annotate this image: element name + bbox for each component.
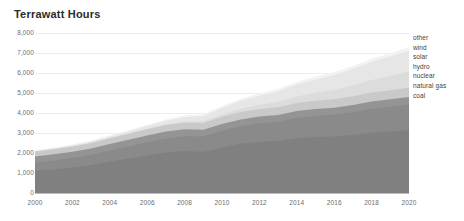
area-layers	[35, 47, 409, 193]
legend-item-solar[interactable]: solar	[413, 52, 446, 62]
plot-area	[0, 0, 464, 221]
y-axis-tick-label: 4,000	[0, 109, 34, 116]
x-axis-tick-label: 2020	[392, 199, 426, 206]
x-axis-tick-label: 2010	[205, 199, 239, 206]
y-axis-tick-label: 8,000	[0, 29, 34, 36]
y-axis-tick-label: 2,000	[0, 149, 34, 156]
x-axis-tick-label: 2012	[242, 199, 276, 206]
legend-item-wind[interactable]: wind	[413, 43, 446, 53]
legend: otherwindsolarhydronuclearnatural gascoa…	[413, 33, 446, 100]
y-axis-tick-label: 0	[0, 189, 34, 196]
legend-item-hydro[interactable]: hydro	[413, 62, 446, 72]
y-axis-tick-label: 7,000	[0, 49, 34, 56]
x-axis-tick-label: 2016	[317, 199, 351, 206]
x-axis-tick-label: 2014	[280, 199, 314, 206]
stacked-area-svg	[0, 0, 464, 221]
y-axis-tick-label: 3,000	[0, 129, 34, 136]
legend-item-natural-gas[interactable]: natural gas	[413, 81, 446, 91]
x-axis-tick-label: 2004	[93, 199, 127, 206]
legend-item-coal[interactable]: coal	[413, 91, 446, 101]
y-axis-tick-label: 6,000	[0, 69, 34, 76]
x-axis-tick-label: 2018	[355, 199, 389, 206]
y-axis-tick-label: 1,000	[0, 169, 34, 176]
x-axis-tick-label: 2000	[18, 199, 52, 206]
legend-item-other[interactable]: other	[413, 33, 446, 43]
x-axis-tick-label: 2002	[55, 199, 89, 206]
x-axis-tick-label: 2006	[130, 199, 164, 206]
x-axis-tick-label: 2008	[168, 199, 202, 206]
legend-item-nuclear[interactable]: nuclear	[413, 71, 446, 81]
y-axis-tick-label: 5,000	[0, 89, 34, 96]
chart-container: Terrawatt Hours 8,0007,0006,0005,0004,00…	[0, 0, 464, 221]
